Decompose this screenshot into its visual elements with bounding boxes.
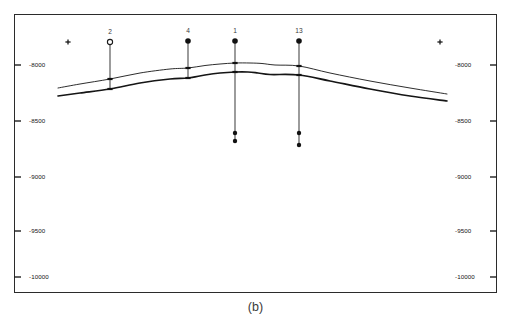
well-label-13: 13 [295,27,302,34]
figure-panel: -8000-8500-9000-9500-10000 -8000-8500-90… [0,0,511,330]
left-tick-label-1: -8500 [29,117,45,124]
right-tick-label-0: -8000 [455,61,471,68]
right-tick-label-3: -9500 [455,227,471,234]
left-tick-label-3: -9500 [29,227,45,234]
well-label-2: 2 [108,28,112,35]
left-tick-label-4: -10000 [29,273,49,280]
left-tick-label-2: -9000 [29,173,45,180]
figure-caption: (b) [0,300,511,314]
right-tick-label-4: -10000 [455,273,475,280]
right-tick-label-2: -9000 [455,173,471,180]
plot-frame [14,14,497,293]
left-tick-label-0: -8000 [29,61,45,68]
well-label-1: 1 [233,27,237,34]
well-label-4: 4 [186,27,190,34]
right-tick-label-1: -8500 [455,117,471,124]
